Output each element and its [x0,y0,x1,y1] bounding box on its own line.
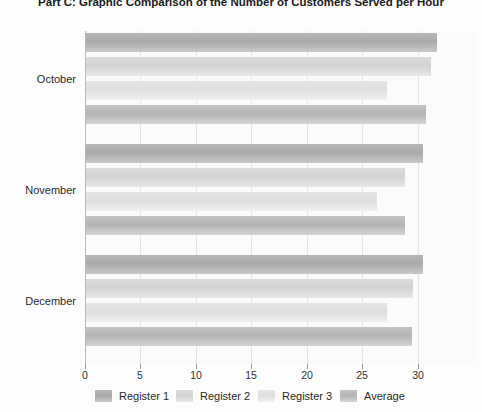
bar-november-register-2 [86,168,405,187]
bar-october-register-2 [86,57,431,76]
xtick-label-25: 25 [342,369,382,381]
chart-container: Part C: Graphic Comparison of the Number… [0,0,482,412]
legend-item-register-1[interactable]: Register 1 [95,388,169,404]
legend-swatch-average [340,390,357,402]
legend-label-register-3: Register 3 [282,390,332,402]
legend-label-register-2: Register 2 [200,390,250,402]
ytick-label-december: December [0,295,76,307]
bar-october-register-1 [86,33,437,52]
chart-legend: Register 1 Register 2 Register 3 Average [0,388,482,406]
xtick-label-5: 5 [120,369,160,381]
chart-title: Part C: Graphic Comparison of the Number… [0,0,482,8]
legend-label-average: Average [364,390,405,402]
legend-item-register-3[interactable]: Register 3 [258,388,332,404]
legend-swatch-register-2 [176,390,193,402]
legend-item-register-2[interactable]: Register 2 [176,388,250,404]
xtick-label-20: 20 [287,369,327,381]
legend-swatch-register-3 [258,390,275,402]
ytick-label-october: October [0,73,76,85]
bar-october-average [86,105,426,124]
ytick-label-november: November [0,184,76,196]
bar-november-register-3 [86,192,377,211]
bar-december-register-3 [86,303,387,322]
xtick-label-30: 30 [398,369,438,381]
xtick-label-15: 15 [231,369,271,381]
bar-december-register-1 [86,255,423,274]
bar-december-average [86,327,412,346]
bar-december-register-2 [86,279,413,298]
bar-november-register-1 [86,144,423,163]
gridline-30 [418,31,419,364]
xtick-label-0: 0 [65,369,105,381]
legend-item-average[interactable]: Average [340,388,405,404]
bar-november-average [86,216,405,235]
legend-swatch-register-1 [95,390,112,402]
legend-label-register-1: Register 1 [119,390,169,402]
bar-october-register-3 [86,81,387,100]
xtick-label-10: 10 [176,369,216,381]
